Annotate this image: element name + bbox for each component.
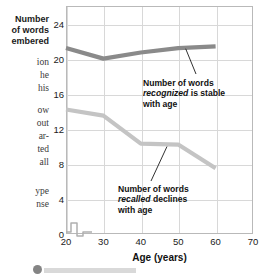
annotation-recognized-line2-rest: is stable: [188, 88, 225, 98]
gridline-horizontal: [67, 165, 252, 166]
annotation-recalled-keyword: recalled: [118, 194, 151, 204]
x-tick-label: 50: [173, 236, 184, 247]
annotation-recalled-line1: Number of words: [118, 184, 189, 194]
gridline-horizontal: [67, 60, 252, 61]
y-tick-label: 16: [42, 88, 64, 99]
gridline-vertical: [67, 7, 68, 233]
x-tick-label: 70: [248, 236, 259, 247]
annotation-recognized-line1: Number of words: [143, 78, 214, 88]
gridline-vertical: [104, 7, 105, 233]
x-tick-label: 20: [61, 236, 72, 247]
gridline-horizontal: [67, 130, 252, 131]
x-axis-title: Age (years): [66, 252, 253, 263]
annotation-recognized-keyword: recognized: [143, 88, 188, 98]
x-tick-label: 60: [210, 236, 221, 247]
y-axis-tick-labels: 04812162024: [40, 6, 64, 234]
x-axis-tick-labels: 203040506070: [66, 236, 253, 252]
y-tick-label: 24: [42, 18, 64, 29]
y-tick-label: 4: [42, 193, 64, 204]
x-tick-label: 30: [98, 236, 109, 247]
x-tick-label: 40: [136, 236, 147, 247]
annotation-recalled-line3: with age: [118, 205, 152, 215]
annotation-recognized-line3: with age: [143, 99, 177, 109]
page-caption-bleed: [44, 268, 136, 273]
y-tick-label: 12: [42, 123, 64, 134]
annotation-recalled-line2-rest: declines: [151, 194, 188, 204]
annotation-recalled: Number of words recalled declines with a…: [118, 184, 224, 215]
page-bullet-mark: [33, 265, 42, 274]
y-tick-label: 20: [42, 53, 64, 64]
gridline-horizontal: [67, 25, 252, 26]
line-chart-figure: 04812162024 203040506070 Age (years) Num…: [0, 0, 264, 275]
annotation-recognized: Number of words recognized is stable wit…: [143, 78, 249, 109]
y-tick-label: 8: [42, 158, 64, 169]
